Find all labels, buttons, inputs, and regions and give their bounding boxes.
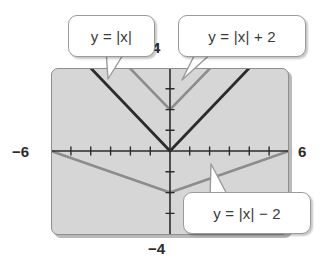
callout-abs-x-minus-2-label: y = |x| − 2 (213, 205, 281, 222)
callout-abs-x-plus-2: y = |x| + 2 (178, 15, 306, 57)
callout-abs-x-minus-2: y = |x| − 2 (183, 192, 311, 234)
x-axis-min-label: −6 (12, 143, 29, 160)
callout-abs-x-label: y = |x| (91, 28, 132, 45)
absolute-value-graph-figure: y = |x| y = |x| + 2 y = |x| − 2 −6 6 4 −… (0, 0, 325, 268)
y-axis-min-label: −4 (148, 240, 165, 257)
callout-abs-x-plus-2-label: y = |x| + 2 (208, 28, 276, 45)
x-axis-max-label: 6 (298, 143, 306, 160)
callout-abs-x: y = |x| (68, 15, 155, 57)
